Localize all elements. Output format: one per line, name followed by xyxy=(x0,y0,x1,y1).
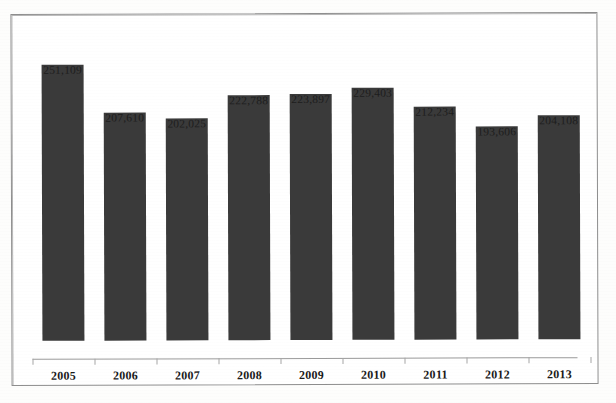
axis-tick xyxy=(218,358,219,364)
bar-value-label-2010: 229,403 xyxy=(327,87,419,99)
bar-value-label-2007: 202,025 xyxy=(141,117,233,129)
x-axis-line xyxy=(32,357,577,360)
x-axis-label-2013: 2013 xyxy=(529,367,591,382)
bar-2010[interactable] xyxy=(352,88,395,340)
bar-2013[interactable] xyxy=(538,115,581,339)
bar-2007[interactable] xyxy=(166,118,209,340)
x-axis-ticks xyxy=(10,12,597,14)
x-axis-label-2012: 2012 xyxy=(467,367,529,382)
bar-value-label-2011: 212,234 xyxy=(389,105,481,117)
bar-value-label-2013: 204,108 xyxy=(513,114,605,126)
bar-2006[interactable] xyxy=(104,113,147,341)
x-axis-label-2009: 2009 xyxy=(281,368,343,383)
scanned-page: 251,109207,610202,025222,788223,897229,4… xyxy=(0,0,616,403)
axis-tick xyxy=(280,358,281,364)
bar-series: 251,109207,610202,025222,788223,897229,4… xyxy=(10,12,597,14)
x-axis-label-2007: 2007 xyxy=(157,368,219,383)
axis-tick xyxy=(528,357,529,363)
bar-value-label-2005: 251,109 xyxy=(17,64,109,76)
x-axis-label-2005: 2005 xyxy=(33,369,95,384)
x-axis-label-2010: 2010 xyxy=(343,368,405,383)
bar-2005[interactable] xyxy=(42,65,85,341)
chart-plot-area: 251,109207,610202,025222,788223,897229,4… xyxy=(10,12,598,386)
x-axis-label-2008: 2008 xyxy=(219,368,281,383)
bar-2012[interactable] xyxy=(476,126,519,339)
x-axis-label-2011: 2011 xyxy=(405,368,467,383)
axis-tick xyxy=(156,358,157,364)
bar-2008[interactable] xyxy=(228,95,271,340)
axis-tick xyxy=(404,358,405,364)
axis-tick xyxy=(590,357,591,363)
x-axis-labels: 200520062007200820092010201120122013 xyxy=(10,12,597,14)
axis-tick xyxy=(32,359,33,365)
x-axis-label-2006: 2006 xyxy=(95,368,157,383)
bar-2011[interactable] xyxy=(414,107,457,340)
bar-2009[interactable] xyxy=(290,94,333,340)
bar-value-label-2012: 193,606 xyxy=(451,125,543,137)
axis-tick xyxy=(466,357,467,363)
axis-tick xyxy=(94,359,95,365)
axis-tick xyxy=(342,358,343,364)
